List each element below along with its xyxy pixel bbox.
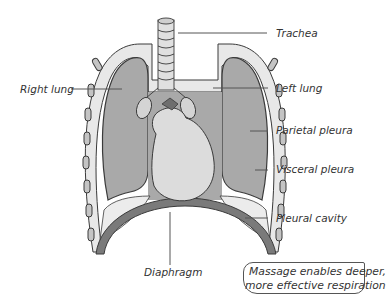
- label-trachea: Trachea: [276, 27, 318, 39]
- callout-line-2: more effective respiration: [245, 279, 386, 292]
- label-diaphragm: Diaphragm: [144, 266, 202, 278]
- label-pleural-cavity: Pleural cavity: [276, 212, 347, 224]
- callout-line-1: Massage enables deeper,: [249, 265, 386, 278]
- label-parietal-pleura: Parietal pleura: [276, 124, 353, 136]
- label-left-lung: Left lung: [276, 82, 322, 94]
- label-right-lung: Right lung: [20, 83, 74, 95]
- label-visceral-pleura: Visceral pleura: [276, 163, 354, 175]
